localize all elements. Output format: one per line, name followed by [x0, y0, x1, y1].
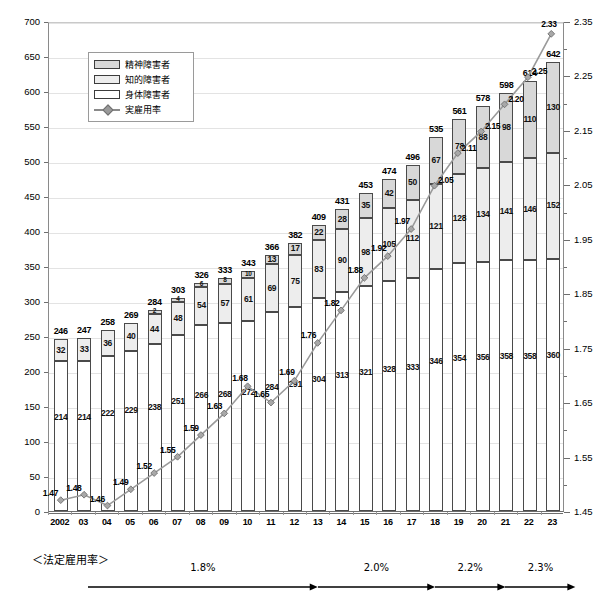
y-axis-right-tickmark — [564, 485, 567, 486]
bar-segment-physical[interactable] — [406, 278, 420, 511]
y-axis-left-tick-label: 50 — [4, 472, 40, 482]
bar-column[interactable]: 360152130642 — [546, 21, 560, 511]
bar-column[interactable]: 34612167535 — [429, 21, 443, 511]
bar-column[interactable]: 3048322409 — [312, 21, 326, 511]
bar-value-intellectual: 40 — [124, 332, 138, 341]
legal-rate-band-label: 2.2% — [448, 563, 492, 573]
bar-total-label: 642 — [538, 50, 568, 59]
bar-segment-physical[interactable] — [265, 312, 279, 511]
y-axis-right-tick-label: 1.65 — [574, 398, 606, 408]
bar-segment-physical[interactable] — [335, 292, 349, 511]
x-axis-tickmark — [329, 512, 330, 515]
rate-value-label: 2.33 — [541, 20, 556, 29]
legend-item-intellectual: 知的障害者 — [94, 72, 188, 87]
legend-label-mental: 精神障害者 — [125, 60, 170, 70]
bar-column[interactable]: 268578333 — [218, 21, 232, 511]
bar-segment-physical[interactable] — [499, 260, 513, 511]
y-axis-right-tickmark — [564, 22, 570, 23]
y-axis-right-tickmark — [564, 240, 570, 241]
bar-column[interactable]: 2726110343 — [241, 21, 255, 511]
bar-column[interactable]: 35412878561 — [452, 21, 466, 511]
bar-column[interactable]: 2846913366 — [265, 21, 279, 511]
bar-segment-physical[interactable] — [218, 323, 232, 511]
y-axis-right-tickmark — [564, 321, 567, 322]
x-axis-tickmark — [118, 512, 119, 515]
rate-value-label: 1.52 — [137, 462, 152, 471]
bar-value-intellectual: 146 — [523, 205, 537, 214]
x-axis-tickmark — [541, 512, 542, 515]
bar-column[interactable]: 32810542474 — [382, 21, 396, 511]
bar-segment-physical[interactable] — [382, 281, 396, 511]
rate-value-label: 2.11 — [461, 144, 476, 153]
bar-value-intellectual: 44 — [148, 325, 162, 334]
bar-value-intellectual: 134 — [476, 210, 490, 219]
bar-value-intellectual: 75 — [288, 277, 302, 286]
bar-value-mental: 98 — [499, 123, 513, 132]
bar-segment-physical[interactable] — [241, 321, 255, 511]
y-axis-left-tick-label: 400 — [4, 227, 40, 237]
bar-column[interactable]: 35613488578 — [476, 21, 490, 511]
legal-rate-band-arrow — [88, 578, 318, 588]
bar-total-label: 409 — [304, 213, 334, 222]
bar-column[interactable]: 33311250496 — [406, 21, 420, 511]
bar-value-mental: 2 — [148, 307, 162, 316]
y-axis-left-tick-label: 350 — [4, 262, 40, 272]
bar-column[interactable]: 358146110614 — [523, 21, 537, 511]
y-axis-left-tickmark — [44, 197, 48, 198]
y-axis-right-tick-label: 1.95 — [574, 235, 606, 245]
rate-value-label: 2.05 — [438, 176, 453, 185]
bar-segment-physical[interactable] — [359, 286, 373, 511]
bar-segment-physical[interactable] — [523, 260, 537, 511]
y-axis-left-tick-label: 250 — [4, 332, 40, 342]
legend-swatch-physical-icon — [94, 90, 120, 99]
legend-swatch-intellectual-icon — [94, 75, 120, 84]
bar-total-label: 303 — [163, 286, 193, 295]
bar-value-physical: 266 — [194, 391, 208, 400]
bar-value-mental: 13 — [265, 255, 279, 264]
y-axis-left-tick-label: 0 — [4, 507, 40, 517]
rate-value-label: 1.55 — [160, 446, 175, 455]
y-axis-left-tickmark — [44, 337, 48, 338]
legend-item-rate: 実雇用率 — [94, 102, 188, 117]
bar-value-physical: 346 — [429, 357, 443, 366]
bar-value-mental: 110 — [523, 115, 537, 124]
bar-segment-physical[interactable] — [194, 325, 208, 511]
bar-total-label: 535 — [421, 125, 451, 134]
bar-segment-physical[interactable] — [429, 269, 443, 511]
x-axis-tickmark — [95, 512, 96, 515]
y-axis-right-tickmark — [564, 158, 567, 159]
bar-value-mental: 10 — [241, 270, 255, 279]
bar-value-mental: 88 — [476, 133, 490, 142]
rate-value-label: 1.47 — [43, 489, 58, 498]
bar-total-label: 366 — [257, 243, 287, 252]
bar-value-intellectual: 57 — [218, 299, 232, 308]
x-axis-tickmark — [447, 512, 448, 515]
bar-segment-physical[interactable] — [148, 344, 162, 511]
y-axis-right-tick-label: 2.25 — [574, 71, 606, 81]
bar-segment-physical[interactable] — [546, 259, 560, 511]
bar-column[interactable]: 2917517382 — [288, 21, 302, 511]
bar-column[interactable]: 21432246 — [54, 21, 68, 511]
y-axis-left-tick-label: 150 — [4, 402, 40, 412]
bar-segment-physical[interactable] — [452, 263, 466, 511]
bar-value-intellectual: 54 — [194, 301, 208, 310]
bar-value-physical: 328 — [382, 365, 396, 374]
bar-value-mental: 50 — [406, 178, 420, 187]
bar-value-physical: 358 — [523, 352, 537, 361]
bar-segment-physical[interactable] — [101, 356, 115, 511]
chart-root: 2143224621433247222362582294026923844228… — [0, 0, 606, 598]
bar-value-physical: 358 — [499, 352, 513, 361]
legend-label-rate: 実雇用率 — [125, 105, 161, 115]
y-axis-left-tickmark — [44, 127, 48, 128]
y-axis-right-tickmark — [564, 349, 570, 350]
y-axis-right-tickmark — [564, 49, 567, 50]
bar-segment-physical[interactable] — [476, 262, 490, 511]
y-axis-right-tickmark — [564, 104, 567, 105]
y-axis-left-tickmark — [44, 232, 48, 233]
y-axis-left-tick-label: 700 — [4, 17, 40, 27]
legend-line-marker-icon — [94, 105, 120, 114]
y-axis-left-tickmark — [44, 22, 48, 23]
bar-total-label: 382 — [280, 231, 310, 240]
bar-column[interactable]: 266546326 — [194, 21, 208, 511]
y-axis-right-tickmark — [564, 294, 570, 295]
